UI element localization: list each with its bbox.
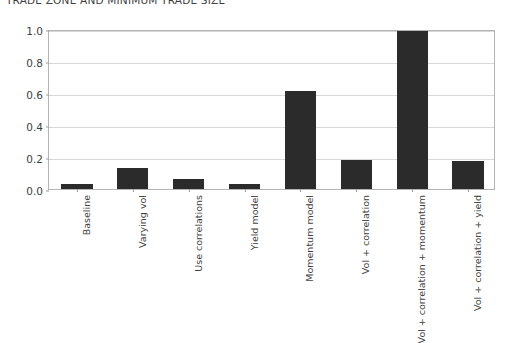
x-axis-tick-mark (412, 189, 413, 192)
x-axis-tick-label: Baseline (81, 195, 92, 235)
y-axis-tick-mark (46, 159, 49, 160)
x-axis-tick-label: Yield model (249, 195, 260, 250)
x-axis-tick-mark (356, 189, 357, 192)
y-axis-tick-mark (46, 191, 49, 192)
y-axis-tick-label: 0.4 (26, 121, 43, 133)
x-axis-tick-mark (300, 189, 301, 192)
y-axis-tick-label: 0.0 (26, 185, 43, 197)
x-axis-tick-mark (133, 189, 134, 192)
y-axis-tick-label: 1.0 (26, 25, 43, 37)
x-axis-tick-label: Use correlations (193, 195, 204, 272)
y-axis-tick-mark (46, 127, 49, 128)
x-axis-tick-label: Vol + correlation + yield (472, 195, 483, 311)
y-axis-tick-label: 0.6 (26, 89, 43, 101)
x-axis-tick-label: Vol + correlation + momentum (416, 195, 427, 343)
bar (285, 91, 316, 189)
bar (397, 31, 428, 189)
bar (173, 179, 204, 189)
bar (117, 168, 148, 189)
y-axis-tick-label: 0.8 (26, 57, 43, 69)
bar (341, 160, 372, 189)
plot-area: 0.00.20.40.60.81.0 BaselineVarying volUs… (48, 30, 495, 190)
x-axis-tick-label: Momentum model (304, 195, 315, 282)
y-axis-tick-mark (46, 31, 49, 32)
y-axis-tick-label: 0.2 (26, 153, 43, 165)
chart-title: TRADE ZONE AND MINIMUM TRADE SIZE (6, 0, 225, 6)
y-axis-tick-mark (46, 63, 49, 64)
x-axis-tick-mark (245, 189, 246, 192)
x-axis-tick-label: Varying vol (137, 195, 148, 248)
x-axis-tick-label: Vol + correlation (360, 195, 371, 274)
x-axis-tick-mark (189, 189, 190, 192)
x-axis-tick-mark (77, 189, 78, 192)
bar (452, 161, 483, 189)
y-axis-tick-mark (46, 95, 49, 96)
x-axis-tick-mark (468, 189, 469, 192)
